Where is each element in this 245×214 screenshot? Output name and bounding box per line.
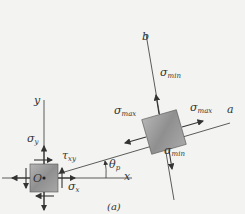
theta-p-label: θp — [109, 158, 121, 172]
sigma-max-arrow-right — [182, 121, 203, 127]
sigma-min-arrow-up — [156, 95, 159, 114]
b-axis-label: b — [142, 30, 149, 43]
sigma-max-right-label: σmax — [190, 101, 212, 115]
sigma-y-label: σy — [27, 132, 40, 146]
tau-xy-label: τxy — [62, 149, 77, 163]
a-axis — [44, 123, 230, 178]
theta-arc — [105, 161, 106, 178]
sigma-min-top-label: σmin — [160, 66, 181, 80]
x-axis-label: x — [124, 170, 131, 183]
sigma-max-left-label: σmax — [114, 104, 136, 118]
a-axis-label: a — [227, 103, 234, 116]
origin-label: O — [33, 172, 42, 185]
stress-transformation-diagram: y x a b O σy τxy σx θp σmax σmax σmin σm… — [0, 0, 245, 214]
figure-caption: (a) — [107, 201, 121, 212]
y-axis-label: y — [33, 94, 41, 107]
origin-point — [42, 176, 45, 179]
sigma-max-arrow-left — [125, 137, 146, 143]
sigma-x-label: σx — [68, 180, 80, 194]
